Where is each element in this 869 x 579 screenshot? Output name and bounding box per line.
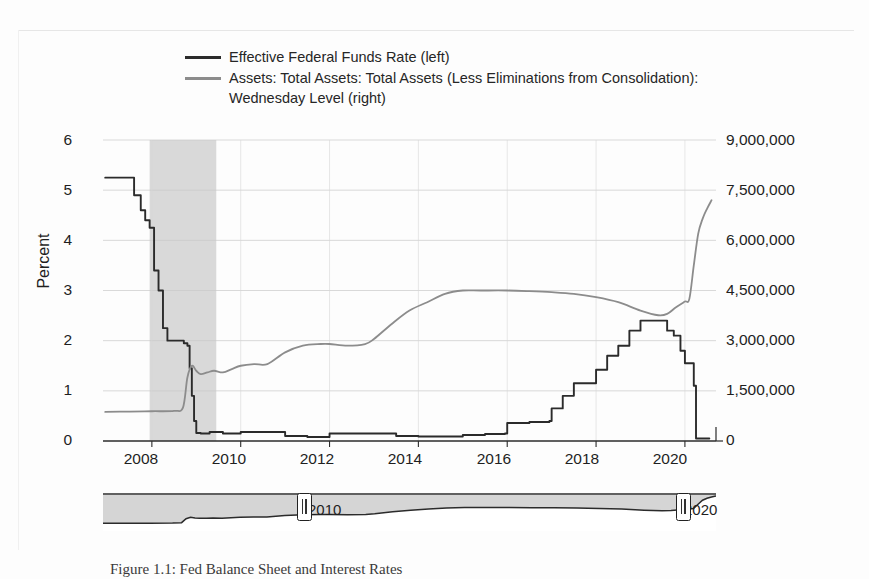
grip-line-icon xyxy=(302,499,304,514)
chart-figure: Effective Federal Funds Rate (left) Asse… xyxy=(0,0,869,579)
range-handle-left[interactable] xyxy=(297,493,312,521)
navigator-year-left: 2010 xyxy=(308,501,341,518)
figure-caption: Figure 1.1: Fed Balance Sheet and Intere… xyxy=(110,561,770,578)
grip-line-icon xyxy=(684,499,686,514)
range-handle-right[interactable] xyxy=(676,493,691,521)
grip-line-icon xyxy=(681,499,683,514)
navigator-preview xyxy=(103,487,716,531)
grip-line-icon xyxy=(305,499,307,514)
range-navigator[interactable]: 2010 2020 xyxy=(103,487,716,531)
